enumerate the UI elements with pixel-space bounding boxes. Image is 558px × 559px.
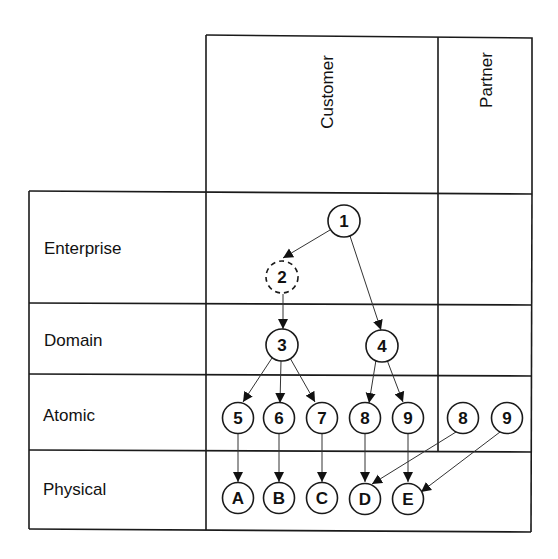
row-line-top xyxy=(29,191,532,194)
edge-3-6 xyxy=(280,361,281,403)
edge-4-9 xyxy=(387,360,403,402)
svg-text:2: 2 xyxy=(277,268,286,287)
edge-partner8-D xyxy=(372,432,456,484)
row-line-enterprise-domain xyxy=(29,303,532,305)
svg-text:C: C xyxy=(316,489,328,508)
node-partner-8[interactable]: 8 xyxy=(448,403,479,434)
node-4[interactable]: 4 xyxy=(366,330,398,362)
row-label-domain: Domain xyxy=(44,331,103,350)
node-E[interactable]: E xyxy=(393,484,424,515)
svg-text:4: 4 xyxy=(377,337,387,356)
svg-text:8: 8 xyxy=(458,409,467,428)
edge-4-8 xyxy=(369,360,376,403)
node-A[interactable]: A xyxy=(223,483,254,514)
column-header-customer: Customer xyxy=(318,55,337,129)
node-5[interactable]: 5 xyxy=(223,403,254,434)
edge-3-7 xyxy=(290,358,315,402)
node-7[interactable]: 7 xyxy=(307,403,338,434)
row-line-atomic-physical xyxy=(29,450,532,452)
svg-text:7: 7 xyxy=(317,409,326,428)
node-8[interactable]: 8 xyxy=(350,403,381,434)
node-2-dashed[interactable]: 2 xyxy=(266,261,298,293)
svg-text:A: A xyxy=(232,489,244,508)
svg-text:1: 1 xyxy=(339,212,348,231)
node-1[interactable]: 1 xyxy=(328,205,360,237)
svg-text:D: D xyxy=(359,490,371,509)
svg-text:9: 9 xyxy=(403,409,412,428)
node-9[interactable]: 9 xyxy=(393,403,424,434)
edge-3-5 xyxy=(243,358,272,402)
svg-text:B: B xyxy=(273,489,285,508)
node-C[interactable]: C xyxy=(307,483,338,514)
node-B[interactable]: B xyxy=(264,483,295,514)
node-6[interactable]: 6 xyxy=(264,403,295,434)
edge-1-4 xyxy=(350,236,381,330)
column-header-partner: Partner xyxy=(477,52,496,108)
layer-diagram: Customer Partner Enterprise Domain Atomi… xyxy=(0,0,558,559)
row-line-bottom xyxy=(29,529,531,532)
svg-text:3: 3 xyxy=(277,336,286,355)
node-3[interactable]: 3 xyxy=(266,329,298,361)
svg-text:6: 6 xyxy=(274,409,283,428)
edge-1-2 xyxy=(283,230,330,258)
row-label-enterprise: Enterprise xyxy=(44,239,121,258)
row-label-physical: Physical xyxy=(43,480,106,499)
svg-text:5: 5 xyxy=(233,409,242,428)
svg-text:8: 8 xyxy=(360,409,369,428)
svg-text:E: E xyxy=(402,490,413,509)
right-border xyxy=(531,191,532,532)
node-partner-9[interactable]: 9 xyxy=(492,403,523,434)
edge-partner9-E xyxy=(421,432,500,492)
row-label-atomic: Atomic xyxy=(43,406,95,425)
svg-text:9: 9 xyxy=(502,409,511,428)
node-D[interactable]: D xyxy=(350,484,381,515)
